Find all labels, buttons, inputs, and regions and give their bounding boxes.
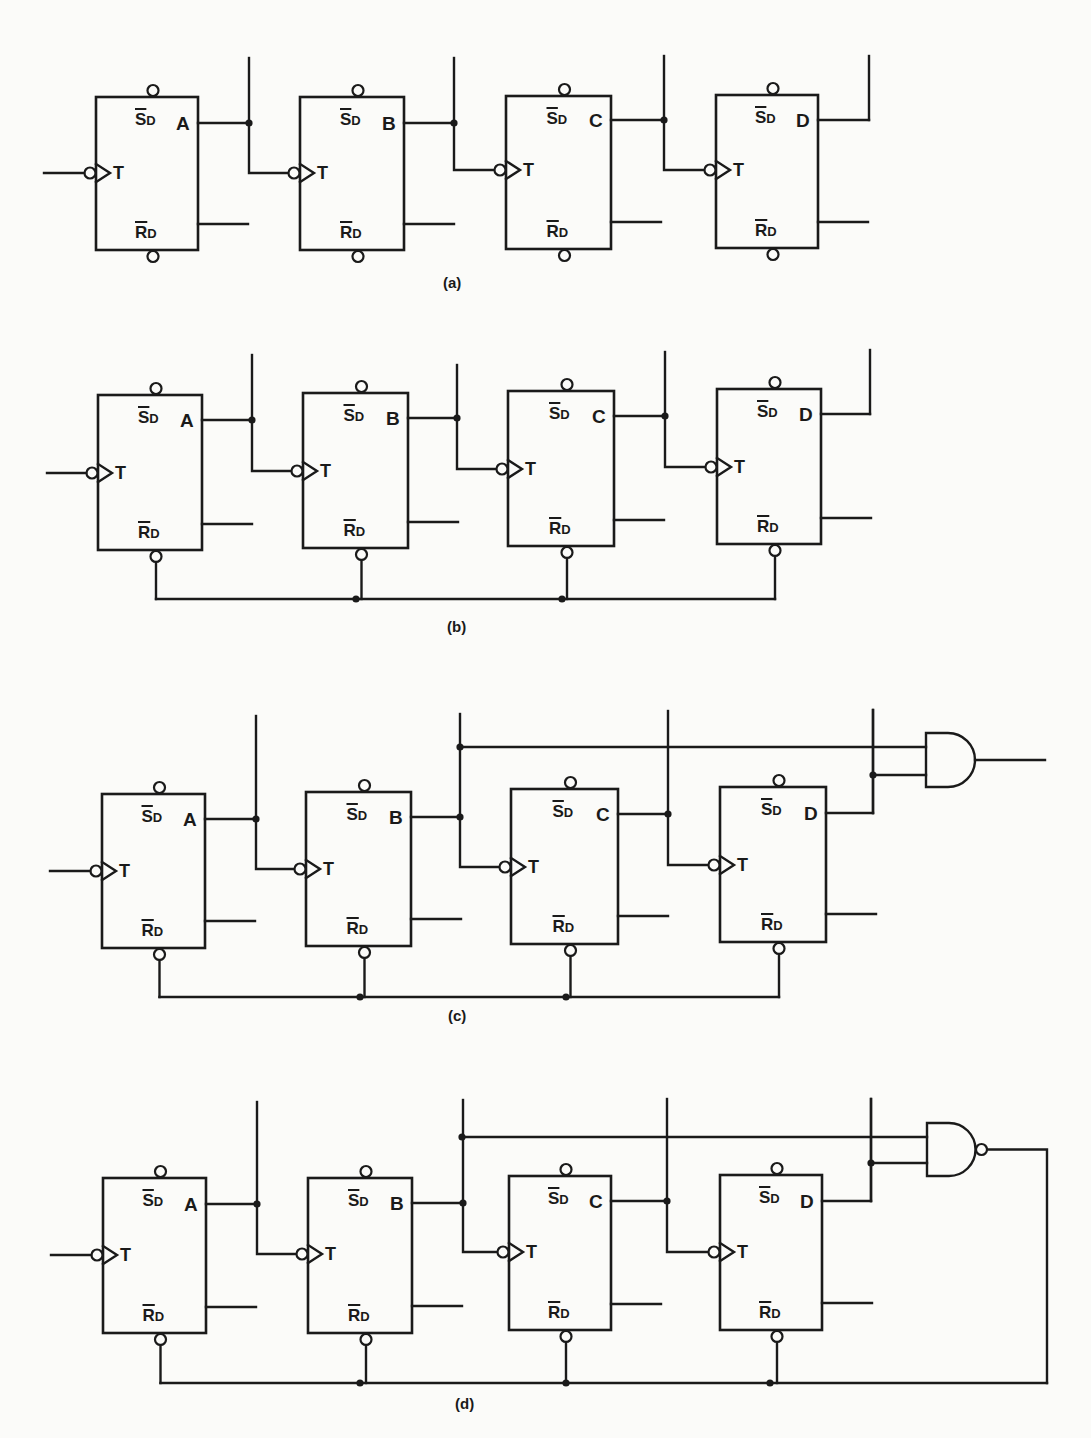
counter-circuit-figure: SDRDATSDRDBTSDRDCTSDRDDT(a)SDRDATSDRDBTS…: [0, 0, 1091, 1438]
reset-direct-label: RD: [135, 224, 157, 241]
set-direct-label: SD: [142, 808, 163, 825]
reset-direct-label: RD: [757, 518, 779, 535]
toggle-input-label: T: [320, 462, 331, 480]
clock-inversion-bubble: [92, 1250, 103, 1261]
reset-direct-label: RD: [347, 920, 369, 937]
reset-direct-bubble: [565, 945, 576, 956]
set-direct-label: SD: [138, 409, 159, 426]
reset-direct-label: RD: [348, 1307, 370, 1324]
output-name-d: D: [800, 1192, 814, 1211]
nand-gate-icon: [927, 1123, 976, 1176]
set-direct-label: SD: [761, 801, 782, 818]
junction-dot: [663, 1197, 670, 1204]
clock-triangle-icon: [102, 862, 116, 880]
reset-direct-label: RD: [547, 223, 569, 240]
junction-dot: [661, 412, 668, 419]
toggle-input-label: T: [525, 460, 536, 478]
output-name-a: A: [183, 810, 197, 829]
junction-dot: [253, 1200, 260, 1207]
clock-inversion-bubble: [495, 165, 506, 176]
toggle-input-label: T: [523, 161, 534, 179]
clock-inversion-bubble: [709, 1247, 720, 1258]
toggle-input-label: T: [734, 458, 745, 476]
clock-triangle-icon: [98, 464, 112, 482]
set-direct-bubble: [151, 383, 162, 394]
set-direct-bubble: [148, 85, 159, 96]
junction-dot: [867, 1159, 874, 1166]
reset-direct-label: RD: [340, 224, 362, 241]
clock-inversion-bubble: [500, 862, 511, 873]
junction-dot: [869, 771, 876, 778]
set-direct-bubble: [768, 83, 779, 94]
output-name-d: D: [804, 804, 818, 823]
toggle-input-label: T: [737, 856, 748, 874]
reset-direct-bubble: [356, 549, 367, 560]
reset-direct-label: RD: [344, 522, 366, 539]
circuit-wiring: [0, 0, 1091, 1438]
panel-caption-a: (a): [443, 275, 461, 290]
clock-triangle-icon: [103, 1246, 117, 1264]
carry-wire: [257, 1204, 296, 1254]
reset-direct-label: RD: [553, 918, 575, 935]
junction-dot: [456, 743, 463, 750]
toggle-input-label: T: [733, 161, 744, 179]
set-direct-bubble: [361, 1166, 372, 1177]
clock-inversion-bubble: [87, 468, 98, 479]
reset-direct-bubble: [774, 943, 785, 954]
clock-inversion-bubble: [85, 168, 96, 179]
reset-direct-bubble: [772, 1331, 783, 1342]
reset-direct-label: RD: [138, 524, 160, 541]
clock-inversion-bubble: [497, 464, 508, 475]
carry-wire: [457, 418, 496, 469]
set-direct-bubble: [565, 777, 576, 788]
reset-direct-label: RD: [549, 520, 571, 537]
clock-triangle-icon: [720, 856, 734, 874]
output-name-a: A: [184, 1195, 198, 1214]
set-direct-label: SD: [135, 111, 156, 128]
clock-inversion-bubble: [709, 860, 720, 871]
set-direct-label: SD: [340, 111, 361, 128]
clock-inversion-bubble: [292, 466, 303, 477]
junction-dot: [458, 1133, 465, 1140]
clock-inversion-bubble: [498, 1247, 509, 1258]
panel-caption-b: (b): [447, 619, 466, 634]
toggle-input-label: T: [115, 464, 126, 482]
carry-wire: [454, 123, 494, 170]
output-name-d: D: [796, 111, 810, 130]
output-name-c: C: [596, 805, 610, 824]
output-name-b: B: [386, 409, 400, 428]
carry-wire: [667, 1201, 708, 1252]
reset-direct-bubble: [559, 250, 570, 261]
junction-dot: [558, 595, 565, 602]
output-name-b: B: [382, 114, 396, 133]
set-direct-bubble: [561, 1164, 572, 1175]
carry-wire: [664, 120, 704, 170]
clock-triangle-icon: [306, 860, 320, 878]
junction-dot: [356, 993, 363, 1000]
junction-dot: [660, 116, 667, 123]
feedback-wire: [988, 1150, 1048, 1384]
set-direct-bubble: [353, 85, 364, 96]
toggle-input-label: T: [737, 1243, 748, 1261]
reset-direct-bubble: [154, 949, 165, 960]
junction-dot: [664, 810, 671, 817]
toggle-input-label: T: [323, 860, 334, 878]
set-direct-label: SD: [759, 1189, 780, 1206]
toggle-input-label: T: [325, 1245, 336, 1263]
set-direct-label: SD: [143, 1192, 164, 1209]
carry-wire: [665, 416, 705, 467]
set-direct-label: SD: [347, 806, 368, 823]
junction-dot: [352, 595, 359, 602]
junction-dot: [562, 1379, 569, 1386]
reset-direct-label: RD: [755, 222, 777, 239]
clock-triangle-icon: [303, 462, 317, 480]
reset-direct-bubble: [155, 1334, 166, 1345]
reset-direct-bubble: [770, 545, 781, 556]
carry-wire: [668, 814, 708, 865]
clock-triangle-icon: [509, 1243, 523, 1261]
reset-direct-label: RD: [143, 1307, 165, 1324]
output-name-a: A: [180, 411, 194, 430]
carry-wire: [463, 1203, 497, 1252]
set-direct-label: SD: [344, 407, 365, 424]
set-direct-bubble: [155, 1166, 166, 1177]
